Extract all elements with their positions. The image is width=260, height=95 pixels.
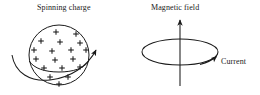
label-spinning-charge: Spinning charge xyxy=(37,4,91,12)
spinning-charge-diagram xyxy=(12,25,96,87)
plus-charge-icon xyxy=(70,56,76,62)
plus-charge-icon xyxy=(68,47,74,53)
label-current: Current xyxy=(221,58,246,66)
label-magnetic-field: Magnetic field xyxy=(151,4,199,12)
spin-rotation-arrow-icon xyxy=(12,50,96,80)
plus-charge-icon xyxy=(38,38,44,44)
plus-charge-icon xyxy=(77,40,83,46)
plus-charge-icon xyxy=(53,29,59,35)
plus-charge-icon xyxy=(57,39,63,45)
charged-sphere-icon xyxy=(29,25,89,85)
figure-canvas xyxy=(0,0,260,95)
plus-charge-icon xyxy=(33,56,39,62)
plus-charge-icon xyxy=(47,74,53,80)
plus-charge-icon xyxy=(49,48,55,54)
plus-charge-icon xyxy=(52,57,58,63)
plus-charge-icon xyxy=(59,65,65,71)
physics-figure: Spinning charge Magnetic field Current xyxy=(0,0,260,95)
magnetic-field-diagram xyxy=(142,20,218,86)
plus-charge-icon xyxy=(56,81,62,87)
plus-charge-icon xyxy=(31,47,37,53)
